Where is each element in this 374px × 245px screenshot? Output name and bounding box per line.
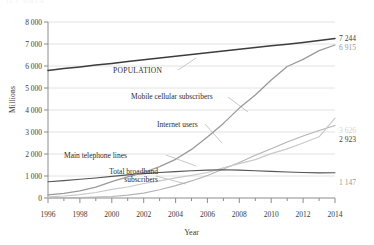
y-axis-label: Millions bbox=[8, 70, 17, 130]
end-label-telephone: 2 923 bbox=[339, 135, 356, 144]
end-label-population: 7 244 bbox=[339, 34, 356, 43]
y-tick-3000: 3 000 bbox=[2, 128, 42, 137]
end-label-mobile: 6 915 bbox=[339, 43, 356, 52]
end-label-broadband: 1 147 bbox=[339, 178, 356, 187]
y-tick-4000: 4 000 bbox=[2, 106, 42, 115]
x-tick-2014: 2014 bbox=[315, 210, 355, 219]
annotation-population: POPULATION bbox=[113, 66, 162, 75]
annotation-telephone: Main telephone lines bbox=[64, 151, 127, 160]
x-axis bbox=[48, 198, 335, 203]
y-tick-5000: 5 000 bbox=[2, 84, 42, 93]
annotation-mobile: Mobile cellular subscribers bbox=[131, 92, 213, 101]
annotation-broadband-line2: subscribers bbox=[124, 175, 158, 184]
x-axis-label: Year bbox=[48, 228, 335, 237]
y-tick-6000: 6 000 bbox=[2, 62, 42, 71]
annotation-broadband: Total broadband subscribers bbox=[86, 168, 158, 184]
y-tick-1000: 1 000 bbox=[2, 172, 42, 181]
y-tick-0: 0 bbox=[2, 194, 42, 203]
end-label-internet: 3 626 bbox=[339, 126, 356, 135]
y-axis bbox=[44, 22, 48, 198]
series-broadband bbox=[48, 126, 335, 198]
ict-line-chart: ICT DATA bbox=[0, 0, 374, 245]
annotation-internet: Internet users bbox=[157, 120, 198, 129]
y-tick-7000: 7 000 bbox=[2, 40, 42, 49]
y-tick-2000: 2 000 bbox=[2, 150, 42, 159]
y-tick-8000: 8 000 bbox=[2, 18, 42, 27]
